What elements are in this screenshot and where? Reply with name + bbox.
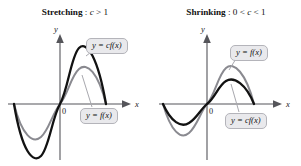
y-axis-label-stretching: y bbox=[53, 24, 58, 34]
x-axis-label-stretching: x bbox=[134, 99, 139, 109]
origin-label-stretching: 0 bbox=[62, 107, 66, 116]
panel-title-separator: : bbox=[83, 7, 90, 17]
panel-title-separator: : bbox=[226, 7, 233, 17]
panel-title-condition: 0 < c < 1 bbox=[233, 7, 266, 17]
panel-title-stretching: Stretching : c > 1 bbox=[0, 7, 150, 17]
callout-cfx-shrinking: y = cf(x) bbox=[225, 113, 267, 129]
panel-title-condition: > 1 bbox=[94, 7, 108, 17]
callout-fx-stretching: y = f(x) bbox=[80, 108, 118, 124]
origin-label-shrinking: 0 bbox=[209, 107, 213, 116]
y-axis-shrinking bbox=[203, 34, 211, 160]
transformation-figure: Stretching : c > 1 bbox=[0, 0, 301, 166]
x-axis-label-shrinking: x bbox=[285, 99, 290, 109]
leader-line-cfx-shrinking bbox=[231, 84, 239, 112]
callout-fx-shrinking: y = f(x) bbox=[230, 45, 268, 61]
panel-title-name: Shrinking bbox=[186, 7, 225, 17]
x-axis-stretching bbox=[8, 100, 131, 108]
panel-stretching: Stretching : c > 1 bbox=[0, 0, 150, 166]
panel-shrinking: Shrinking : 0 < c < 1 bbox=[151, 0, 301, 166]
y-axis-label-shrinking: y bbox=[200, 24, 205, 34]
panel-title-shrinking: Shrinking : 0 < c < 1 bbox=[151, 7, 301, 17]
callout-cfx-stretching: y = cf(x) bbox=[86, 38, 128, 54]
panel-title-variable: c bbox=[247, 7, 251, 17]
plot-shrinking: y x 0 bbox=[151, 18, 301, 166]
x-axis-shrinking bbox=[159, 100, 282, 108]
panel-title-name: Stretching bbox=[42, 7, 83, 17]
leader-line-fx-stretching bbox=[82, 75, 92, 107]
